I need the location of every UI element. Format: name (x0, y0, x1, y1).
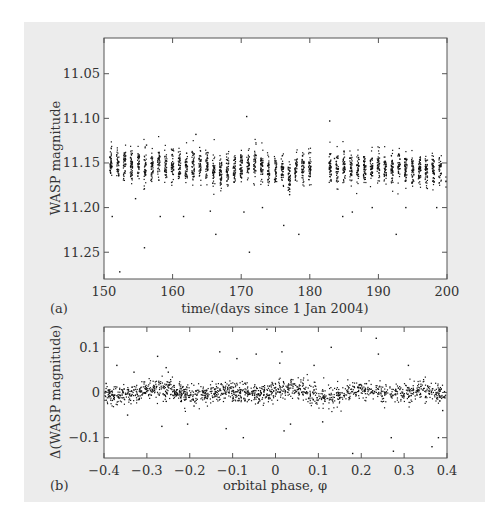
x-tick-label: 170 (229, 284, 254, 299)
x-tick-label: 0.4 (437, 463, 458, 478)
y-tick-label: 0 (92, 385, 100, 400)
y-tick-label: 11.10 (63, 111, 100, 126)
x-tick-label: 0.2 (351, 463, 372, 478)
x-axis-label-a: time/(days since 1 Jan 2004) (181, 301, 368, 316)
y-tick-label: 11.20 (63, 200, 100, 215)
chart-a: 15016017018019020011.0511.1011.1511.2011… (48, 38, 459, 316)
x-tick-label: −0.1 (217, 463, 249, 478)
y-tick-label: 11.05 (63, 66, 100, 81)
x-tick-label: −0.3 (131, 463, 163, 478)
x-tick-label: 0.1 (308, 463, 329, 478)
x-tick-label: 190 (366, 284, 391, 299)
y-axis-label-a: WASP magnitude (48, 100, 63, 215)
x-tick-label: 180 (297, 284, 322, 299)
x-tick-label: 0 (271, 463, 279, 478)
chart-b: −0.4−0.3−0.2−0.100.10.20.30.4−0.100.1 or… (48, 325, 457, 493)
x-axis-label-b: orbital phase, φ (223, 478, 327, 493)
y-tick-label: −0.1 (68, 430, 100, 445)
x-tick-label: −0.4 (88, 463, 120, 478)
y-axis-label-b: Δ(WASP magnitude) (48, 325, 63, 459)
y-tick-label: 0.1 (79, 340, 100, 355)
y-tick-label: 11.25 (63, 245, 100, 260)
x-tick-label: 160 (160, 284, 185, 299)
x-tick-label: −0.2 (174, 463, 206, 478)
y-tick-label: 11.15 (63, 155, 100, 170)
x-tick-label: 150 (92, 284, 117, 299)
figure-svg: 15016017018019020011.0511.1011.1511.2011… (0, 0, 500, 521)
x-tick-label: 200 (435, 284, 460, 299)
x-tick-label: 0.3 (394, 463, 415, 478)
panel-label-a: (a) (50, 301, 68, 316)
panel-label-b: (b) (50, 478, 68, 493)
